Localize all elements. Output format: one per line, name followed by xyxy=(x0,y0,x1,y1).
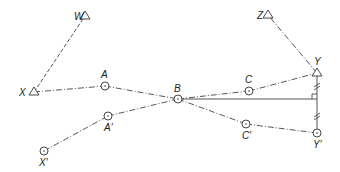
station-center-dot xyxy=(43,150,45,152)
station-center-dot xyxy=(107,115,109,117)
line-c_prime-y_prime xyxy=(246,124,317,133)
traverse-diagram: WXZYABCA′X′C′Y′ xyxy=(0,0,340,172)
line-y-z xyxy=(268,15,317,73)
station-b: B xyxy=(174,83,182,103)
line-a-b xyxy=(105,86,178,99)
station-label: X′ xyxy=(38,157,49,168)
station-c-prime: C′ xyxy=(242,120,252,141)
line-b-c_prime xyxy=(178,99,246,124)
station-label: Y xyxy=(314,56,322,67)
station-center-dot xyxy=(248,90,250,92)
station-center-dot xyxy=(245,123,247,125)
station-y-prime: Y′ xyxy=(313,129,323,150)
line-x-w xyxy=(34,16,85,92)
station-label: Y′ xyxy=(313,139,323,150)
station-z: Z xyxy=(256,10,273,21)
stations-layer: WXZYABCA′X′C′Y′ xyxy=(18,10,323,168)
station-label: Z xyxy=(256,10,264,21)
station-label: X xyxy=(18,87,26,98)
station-x-prime: X′ xyxy=(38,147,49,168)
station-label: C xyxy=(245,74,253,85)
station-label: A′ xyxy=(103,122,114,133)
station-a-prime: A′ xyxy=(103,112,114,133)
line-b-c xyxy=(178,91,249,99)
station-a: A xyxy=(100,69,109,90)
station-c: C xyxy=(245,74,253,95)
triangle-station-icon xyxy=(29,87,39,95)
station-label: W xyxy=(74,11,85,22)
station-center-dot xyxy=(104,85,106,87)
station-w: W xyxy=(74,11,90,22)
station-center-dot xyxy=(316,132,318,134)
line-a_prime-b xyxy=(108,99,178,116)
line-x-a xyxy=(34,86,105,92)
right-angle-mark xyxy=(312,94,317,99)
triangle-station-icon xyxy=(263,10,273,18)
station-label: C′ xyxy=(242,130,252,141)
station-center-dot xyxy=(177,98,179,100)
station-label: B xyxy=(174,83,181,94)
line-c-y xyxy=(249,73,317,91)
station-label: A xyxy=(100,69,108,80)
line-x_prime-a_prime xyxy=(44,116,108,151)
station-y: Y xyxy=(312,56,322,76)
